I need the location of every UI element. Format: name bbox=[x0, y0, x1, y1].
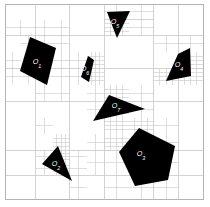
mesh-canvas: O1O2O3O4O5O6O7 bbox=[0, 0, 210, 207]
quadtree-decomposition-figure: O1O2O3O4O5O6O7 bbox=[0, 0, 210, 207]
